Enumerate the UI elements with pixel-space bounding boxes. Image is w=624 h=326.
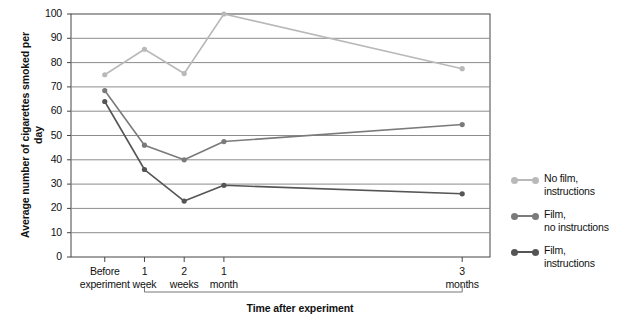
y-tick-label: 10 (34, 226, 62, 238)
legend-swatch-icon (511, 173, 539, 187)
y-tick-label: 0 (34, 250, 62, 262)
data-point (460, 191, 465, 196)
data-point (102, 99, 107, 104)
y-tick-label: 60 (34, 104, 62, 116)
data-point (221, 183, 226, 188)
series-line-2 (105, 101, 462, 201)
x-tick-label: 1 month (184, 265, 264, 290)
data-point (221, 139, 226, 144)
chart-container: Average number of cigarettes smoked per … (0, 0, 624, 326)
data-point (102, 72, 107, 77)
data-point (460, 122, 465, 127)
x-axis-title: Time after experiment (170, 302, 430, 314)
legend-item-1: Film, no instructions (511, 208, 621, 233)
data-point (460, 66, 465, 71)
legend-label: Film, instructions (539, 244, 595, 269)
series-line-1 (105, 91, 462, 160)
y-tick-label: 90 (34, 31, 62, 43)
data-point (142, 47, 147, 52)
data-point (182, 199, 187, 204)
data-point (221, 11, 226, 16)
y-tick-label: 80 (34, 56, 62, 68)
y-tick-label: 20 (34, 201, 62, 213)
y-tick-label: 30 (34, 177, 62, 189)
y-tick-label: 100 (34, 7, 62, 19)
x-tick-label: 3 months (422, 265, 502, 290)
data-point (182, 157, 187, 162)
series-line-0 (105, 14, 462, 75)
data-point (102, 88, 107, 93)
legend-item-0: No film, instructions (511, 172, 621, 197)
legend-label: Film, no instructions (539, 208, 609, 233)
y-tick-label: 40 (34, 153, 62, 165)
y-tick-label: 50 (34, 129, 62, 141)
legend-label: No film, instructions (539, 172, 595, 197)
legend-swatch-icon (511, 245, 539, 259)
y-tick-label: 70 (34, 80, 62, 92)
legend-item-2: Film, instructions (511, 244, 621, 269)
legend-swatch-icon (511, 209, 539, 223)
data-point (182, 71, 187, 76)
data-point (142, 143, 147, 148)
data-point (142, 167, 147, 172)
chart-legend: No film, instructionsFilm, no instructio… (511, 172, 621, 280)
